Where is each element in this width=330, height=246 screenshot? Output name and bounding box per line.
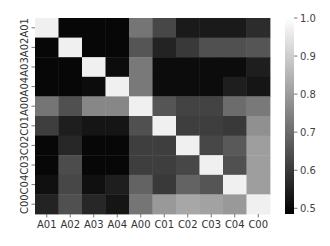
heatmap-cell-A02-A01 — [35, 38, 59, 58]
heatmap-cell-A02-C00 — [247, 38, 271, 58]
heatmap-cell-C01-C04 — [223, 116, 247, 136]
colorbar-tick-label: 0.5 — [300, 203, 316, 214]
heatmap-cell-A00-C00 — [247, 96, 271, 116]
heatmap-cell-A03-A02 — [59, 57, 83, 77]
heatmap-cell-A04-A01 — [35, 77, 59, 97]
heatmap-cell-C00-A01 — [35, 194, 59, 214]
heatmap-cell-C01-A04 — [106, 116, 130, 136]
heatmap-cell-A02-A02 — [59, 38, 83, 58]
heatmap-cell-C01-C02 — [176, 116, 200, 136]
heatmap-cell-C04-C04 — [223, 175, 247, 195]
colorbar-tick-label: 1.0 — [300, 13, 316, 24]
heatmap-cell-A00-A03 — [82, 96, 106, 116]
heatmap-cell-C00-C01 — [153, 194, 177, 214]
heatmap-cell-A04-A00 — [129, 77, 153, 97]
x-tick-label: A01 — [37, 219, 57, 230]
colorbar-gradient — [285, 18, 294, 214]
heatmap-cell-C00-C03 — [200, 194, 224, 214]
heatmap-cell-C02-A03 — [82, 136, 106, 156]
x-tick-label: A00 — [131, 219, 151, 230]
heatmap-cell-C03-A01 — [35, 155, 59, 175]
heatmap-cell-A00-A02 — [59, 96, 83, 116]
colorbar-tick-label: 0.9 — [300, 51, 316, 62]
heatmap-cell-C00-A04 — [106, 194, 130, 214]
heatmap-cell-C00-A02 — [59, 194, 83, 214]
x-tick-label: C00 — [248, 219, 268, 230]
heatmap-cell-A01-A04 — [106, 18, 130, 38]
heatmap-cell-C00-A03 — [82, 194, 106, 214]
heatmap-cell-C03-A02 — [59, 155, 83, 175]
x-tick-label: C02 — [178, 219, 198, 230]
heatmap-cell-C00-C00 — [247, 194, 271, 214]
heatmap-cell-A01-A02 — [59, 18, 83, 38]
heatmap-cell-C03-C02 — [176, 155, 200, 175]
y-tick-label: C02 — [19, 136, 30, 156]
heatmap-cell-C01-C01 — [153, 116, 177, 136]
y-tick-label: C01 — [19, 116, 30, 136]
heatmap-cell-A00-A04 — [106, 96, 130, 116]
heatmap-cell-A03-A00 — [129, 57, 153, 77]
heatmap-cell-C04-C03 — [200, 175, 224, 195]
heatmap-cell-A01-C02 — [176, 18, 200, 38]
x-tick-label: C01 — [154, 219, 174, 230]
heatmap-cell-C04-A02 — [59, 175, 83, 195]
y-axis: A01A02A03A04A00C01C02C03C04C00 — [19, 18, 35, 214]
heatmap-cell-A03-C01 — [153, 57, 177, 77]
heatmap-cell-A00-C02 — [176, 96, 200, 116]
y-tick-label: C04 — [19, 175, 30, 195]
heatmap-cell-C02-C01 — [153, 136, 177, 156]
x-tick-label: C03 — [201, 219, 221, 230]
heatmap-cell-C02-C00 — [247, 136, 271, 156]
colorbar-tick-label: 0.6 — [300, 165, 316, 176]
heatmap-cell-A02-C01 — [153, 38, 177, 58]
heatmap-cell-C02-C03 — [200, 136, 224, 156]
heatmap-cell-A01-C00 — [247, 18, 271, 38]
heatmap-cell-C01-C00 — [247, 116, 271, 136]
heatmap-cell-C03-C01 — [153, 155, 177, 175]
heatmap-cell-A01-A03 — [82, 18, 106, 38]
colorbar-tick-label: 0.7 — [300, 127, 316, 138]
heatmap-cell-C04-A03 — [82, 175, 106, 195]
y-tick-label: A03 — [19, 57, 30, 77]
heatmap-cell-C01-A03 — [82, 116, 106, 136]
heatmap-cell-A04-A03 — [82, 77, 106, 97]
heatmap-cell-A02-C04 — [223, 38, 247, 58]
heatmap-cell-A00-C03 — [200, 96, 224, 116]
heatmap-cell-A01-C03 — [200, 18, 224, 38]
heatmap-cell-A04-C03 — [200, 77, 224, 97]
heatmap-cell-C03-A03 — [82, 155, 106, 175]
heatmap-cell-A04-C00 — [247, 77, 271, 97]
heatmap-cell-C03-A00 — [129, 155, 153, 175]
heatmap-cell-C02-C02 — [176, 136, 200, 156]
heatmap-cell-C02-A02 — [59, 136, 83, 156]
heatmap-cell-C00-C02 — [176, 194, 200, 214]
heatmap-chart: A01A02A03A04A00C01C02C03C04C00 A01A02A03… — [0, 0, 330, 246]
heatmap-cell-C04-C00 — [247, 175, 271, 195]
y-tick-label: A04 — [19, 77, 30, 97]
heatmap-cell-A04-A02 — [59, 77, 83, 97]
heatmap-cell-C02-A00 — [129, 136, 153, 156]
heatmap-cell-A03-C03 — [200, 57, 224, 77]
heatmap-cell-C02-A01 — [35, 136, 59, 156]
heatmap-cells — [35, 18, 270, 214]
heatmap-cell-A03-A01 — [35, 57, 59, 77]
x-tick-label: A02 — [60, 219, 80, 230]
x-tick-label: A03 — [84, 219, 104, 230]
heatmap-cell-A04-C02 — [176, 77, 200, 97]
heatmap-cell-A02-C02 — [176, 38, 200, 58]
heatmap-cell-A04-C04 — [223, 77, 247, 97]
heatmap-cell-A00-A01 — [35, 96, 59, 116]
heatmap-cell-A01-C04 — [223, 18, 247, 38]
heatmap-cell-A02-C03 — [200, 38, 224, 58]
heatmap-cell-A03-C04 — [223, 57, 247, 77]
y-tick-label: C00 — [19, 194, 30, 214]
heatmap-cell-C00-A00 — [129, 194, 153, 214]
y-tick-label: A02 — [19, 38, 30, 58]
heatmap-cell-A02-A00 — [129, 38, 153, 58]
heatmap-cell-C01-C03 — [200, 116, 224, 136]
x-axis: A01A02A03A04A00C01C02C03C04C00 — [37, 214, 268, 230]
heatmap-cell-A00-C04 — [223, 96, 247, 116]
heatmap-cell-A03-C02 — [176, 57, 200, 77]
heatmap-cell-C03-A04 — [106, 155, 130, 175]
heatmap-cell-C03-C00 — [247, 155, 271, 175]
